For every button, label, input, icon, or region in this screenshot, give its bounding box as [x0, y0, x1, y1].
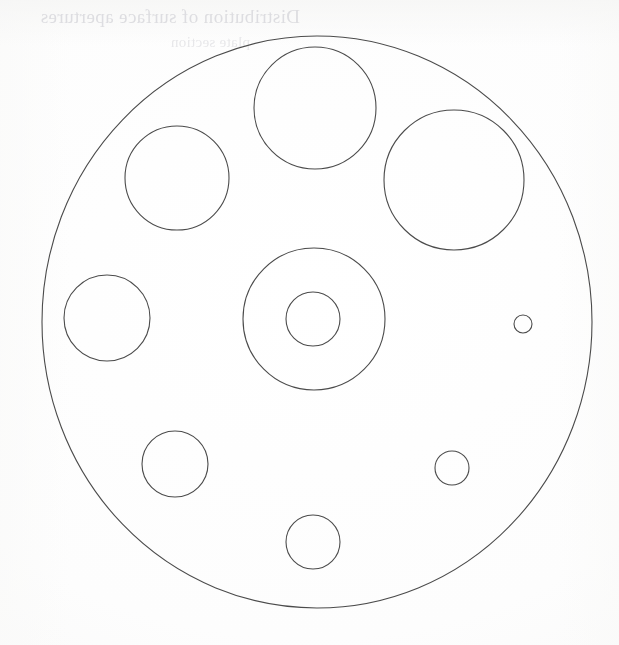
central-hub-outer-ring — [243, 248, 385, 390]
aperture-upper-right — [384, 110, 524, 250]
aperture-bottom — [286, 515, 340, 569]
aperture-upper-left — [125, 126, 229, 230]
aperture-top — [254, 47, 376, 169]
central-hub-group — [243, 248, 385, 390]
aperture-right-small — [514, 315, 532, 333]
outer-plate-boundary — [42, 36, 592, 608]
scanned-page: Distribution of surface apertures plate … — [0, 0, 619, 645]
outer-plate-boundary-group — [42, 36, 592, 608]
circular-plate-diagram — [0, 0, 619, 645]
aperture-left — [64, 275, 150, 361]
central-hub-inner-ring — [286, 292, 340, 346]
aperture-lower-left — [142, 431, 208, 497]
aperture-lower-right — [435, 451, 469, 485]
apertures-group — [64, 47, 532, 569]
